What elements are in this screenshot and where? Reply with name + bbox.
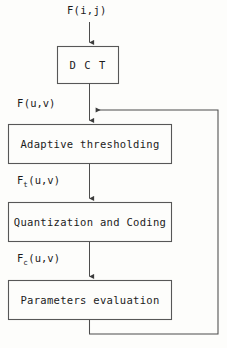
edge-label-f-uv: F(u,v): [17, 97, 55, 109]
box-label-adaptive-thresholding: Adaptive thresholding: [8, 124, 172, 164]
edge-label-f-c-uv: Fc(u,v): [17, 252, 60, 264]
box-label-dct: D C T: [57, 46, 119, 84]
edge-label-f-t-uv: Ft(u,v): [17, 174, 60, 186]
edge-label-f-c-uv-rest: (u,v): [28, 252, 60, 264]
box-label-parameters-evaluation: Parameters evaluation: [8, 280, 172, 320]
input-signal-label: F(i,j): [67, 4, 107, 16]
edge-label-f-t-uv-subscript: t: [23, 180, 28, 189]
edge-label-f-uv-subscript: [23, 103, 24, 112]
edge-label-f-t-uv-rest: (u,v): [28, 174, 60, 186]
edge-label-f-c-uv-subscript: c: [23, 258, 28, 267]
flowchart-diagram: F(i,j) D C T Adaptive thresholding Quant…: [0, 0, 227, 348]
box-label-quantization-and-coding: Quantization and Coding: [8, 202, 172, 242]
edge-label-f-uv-rest: (u,v): [24, 97, 56, 109]
